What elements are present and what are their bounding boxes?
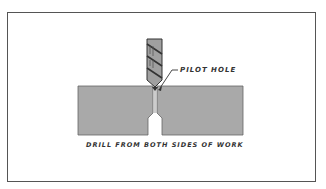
drilling-diagram: [0, 0, 326, 189]
drill-bit-icon: [147, 39, 162, 91]
workpiece-left: [78, 86, 153, 135]
workpiece-right: [157, 86, 243, 135]
pilot-hole-label: PILOT HOLE: [180, 66, 236, 74]
callout-leader: [160, 70, 178, 88]
figure-caption: DRILL FROM BOTH SIDES OF WORK: [86, 141, 244, 149]
